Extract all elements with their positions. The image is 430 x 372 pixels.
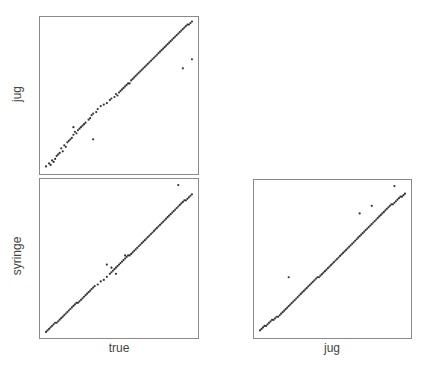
scatter-panel-syringe-vs-jug	[253, 179, 412, 339]
data-point	[97, 108, 99, 110]
data-point	[92, 113, 94, 115]
data-point	[106, 102, 108, 104]
data-point	[92, 138, 94, 140]
data-point	[129, 82, 131, 84]
scatter-plot-jug-vs-true	[40, 17, 198, 174]
data-point	[84, 122, 86, 124]
data-point	[60, 147, 62, 149]
y-axis-label-syringe: syringe	[10, 216, 24, 296]
data-point	[100, 280, 102, 282]
data-point	[59, 152, 61, 154]
data-point	[72, 134, 74, 136]
data-point	[113, 96, 115, 98]
data-point	[191, 20, 193, 22]
scatter-panel-jug-vs-true	[39, 16, 199, 175]
data-point	[393, 185, 395, 187]
scatter-panel-syringe-vs-true	[39, 178, 199, 339]
data-point	[110, 267, 112, 269]
data-point	[182, 67, 184, 69]
data-point	[359, 212, 361, 214]
data-point	[371, 205, 373, 207]
data-point	[106, 276, 108, 278]
data-point	[97, 283, 99, 285]
data-point	[62, 150, 64, 152]
data-point	[71, 137, 73, 139]
data-point	[177, 184, 179, 186]
data-point	[45, 165, 47, 167]
scatter-plot-syringe-vs-true	[40, 179, 198, 338]
data-point	[50, 164, 52, 166]
data-point	[288, 276, 290, 278]
data-point	[103, 103, 105, 105]
data-point	[100, 105, 102, 107]
data-point	[191, 193, 193, 195]
data-point	[95, 111, 97, 113]
data-point	[65, 146, 67, 148]
data-point	[106, 264, 108, 266]
data-point	[89, 117, 91, 119]
data-point	[110, 97, 112, 99]
data-point	[103, 279, 105, 281]
data-point	[191, 58, 193, 60]
x-axis-label-jug: jug	[292, 341, 372, 355]
data-point	[115, 273, 117, 275]
data-point	[53, 161, 55, 163]
data-point	[124, 254, 126, 256]
data-point	[94, 285, 96, 287]
y-axis-label-jug: jug	[10, 54, 24, 134]
data-point	[54, 158, 56, 160]
scatter-plot-syringe-vs-jug	[254, 180, 411, 338]
data-point	[404, 193, 406, 195]
data-point	[72, 126, 74, 128]
data-point	[116, 94, 118, 96]
data-point	[75, 132, 77, 134]
x-axis-label-true: true	[79, 341, 159, 355]
